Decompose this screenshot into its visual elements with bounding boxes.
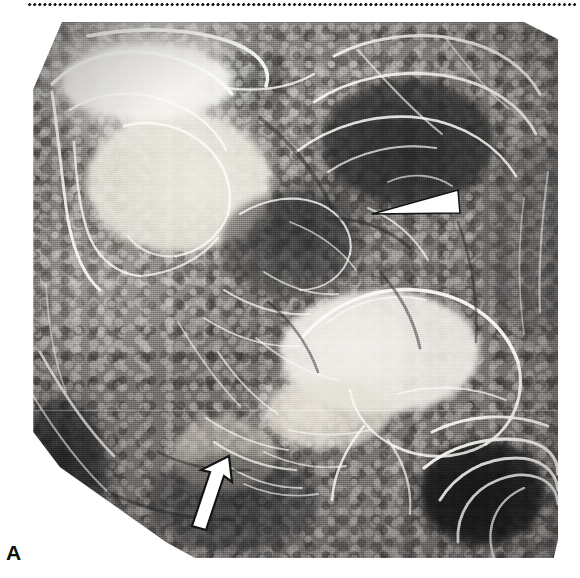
barium-pools: [28, 44, 558, 550]
arrow-marker-icon: [184, 450, 244, 536]
figure-panel-a: A: [0, 0, 580, 578]
scanline-artifact: [28, 410, 558, 411]
arrowhead-marker-icon: [368, 184, 464, 222]
panel-label: A: [6, 542, 21, 563]
radiograph-image: [28, 22, 558, 558]
dotted-separator-rule: [28, 3, 576, 8]
barium-lined-bowel-walls: [28, 22, 558, 558]
